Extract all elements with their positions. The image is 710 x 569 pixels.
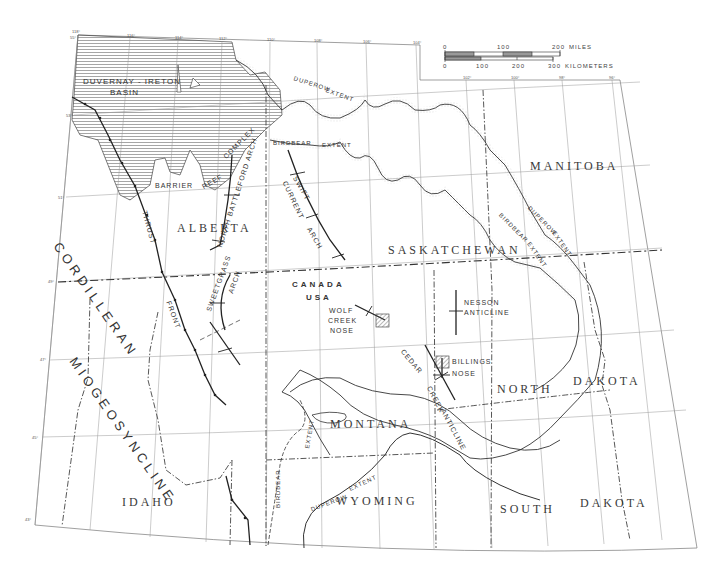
label-duvernay-ireton: DUVERNAY - IRETON (83, 78, 181, 86)
scale-km-100: 100 (476, 63, 489, 69)
tick-parallel-47: 47° (40, 358, 46, 362)
label-manitoba: MANITOBA (530, 160, 618, 172)
wolf-creek-box (376, 314, 389, 327)
label-south-dakota: DAKOTA (580, 497, 648, 509)
label-birdbear-north-b: EXTENT (322, 142, 352, 148)
tick-parallel-55: 55° (70, 36, 76, 40)
label-creek: CREEK (328, 317, 357, 324)
tick-meridian-100: 100° (511, 76, 519, 80)
birdbear-south-line (268, 400, 305, 545)
label-wyoming: WYOMING (336, 495, 418, 507)
label-alberta: ALBERTA (177, 222, 252, 234)
tick-parallel-43: 43° (25, 518, 31, 522)
tick-meridian-96: 96° (609, 76, 615, 80)
tick-parallel-45: 45° (32, 436, 38, 440)
label-nose: NOSE (330, 327, 354, 334)
tick-meridian-116: 116° (127, 34, 135, 38)
tick-meridian-98: 98° (559, 76, 565, 80)
scale-bar (445, 50, 560, 62)
billings-box (436, 356, 449, 368)
label-south: SOUTH (500, 503, 555, 515)
tick-parallel-53: 53° (66, 114, 72, 118)
scale-miles-200: 200 (552, 44, 565, 50)
label-anticline: ANTICLINE (464, 309, 510, 316)
tick-meridian-106: 106° (363, 40, 371, 44)
label-barrier: BARRIER (155, 182, 193, 189)
tick-meridian-104: 104° (413, 41, 421, 45)
scale-miles-100: 100 (497, 44, 510, 50)
duperow-south-line (303, 433, 540, 548)
label-north-dakota: DAKOTA (573, 375, 641, 387)
label-canada: CANADA (292, 281, 345, 289)
scale-km-200: 200 (512, 63, 525, 69)
label-nesson: NESSON (464, 299, 500, 306)
label-wolf: WOLF (329, 307, 353, 314)
sweetgrass-arch-axis (221, 275, 230, 330)
tick-meridian-110: 110° (267, 38, 275, 42)
scale-km-0: 0 (443, 63, 447, 69)
tick-parallel-49: 49° (48, 280, 54, 284)
label-north: NORTH (497, 383, 553, 395)
label-birdbear-north-a: BIRDBEAR (273, 140, 312, 146)
scale-miles-unit: MILES (569, 44, 592, 50)
label-montana: MONTANA (330, 418, 411, 430)
label-basin: BASIN (110, 89, 139, 97)
tick-meridian-118: 118° (72, 30, 80, 34)
axis-arrows (210, 172, 463, 380)
tick-meridian-102: 102° (463, 76, 471, 80)
label-saskatchewan: SASKATCHEWAN (388, 244, 521, 256)
label-billings: BILLINGS (452, 358, 492, 365)
label-birdbear-south-a: BIRDBEAR (275, 469, 281, 508)
tick-meridian-114: 114° (175, 36, 183, 40)
tick-meridian-112: 112° (219, 37, 227, 41)
scale-miles-0: 0 (443, 44, 447, 50)
tick-parallel-51: 51° (58, 196, 64, 200)
label-billings-nose: NOSE (452, 370, 476, 377)
scale-km-unit: KILOMETERS (565, 63, 614, 69)
tick-meridian-108: 108° (314, 39, 322, 43)
label-usa: USA (306, 294, 332, 302)
scale-km-300: 300 (548, 63, 561, 69)
